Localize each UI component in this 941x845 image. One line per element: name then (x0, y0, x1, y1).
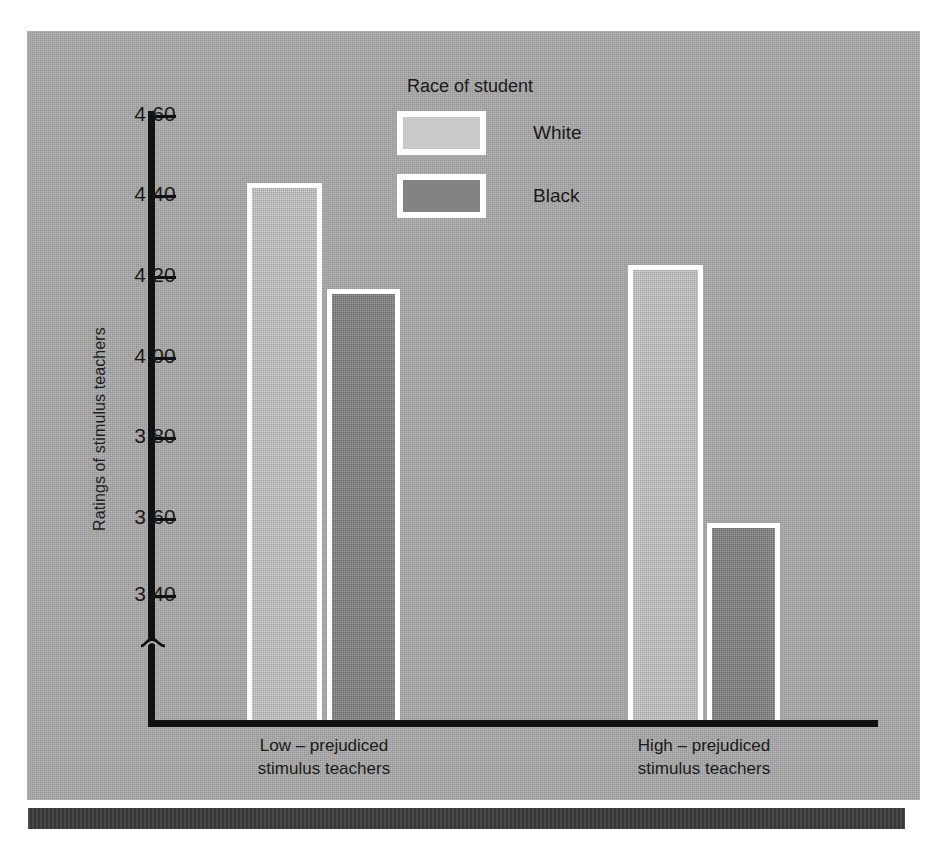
y-tick-label: 4.00 (84, 344, 176, 368)
x-group-label-line1: High – prejudiced (554, 735, 854, 758)
legend-label: White (533, 122, 582, 144)
x-axis-line (148, 720, 878, 727)
chart-figure-panel: Ratings of stimulus teachers 4.60 4.40 4… (27, 31, 920, 800)
x-group-label-line1: Low – prejudiced (174, 735, 474, 758)
bar-high-prejudiced-white[interactable] (628, 265, 703, 720)
legend-swatch-white (397, 111, 486, 155)
x-group-label-line2: stimulus teachers (174, 758, 474, 781)
y-tick-mark (155, 195, 176, 198)
legend-swatch-black (397, 174, 486, 218)
legend: Race of student White Black (397, 76, 667, 237)
bar-fill (633, 270, 698, 720)
legend-swatch-fill (403, 117, 480, 149)
y-tick-label: 4.60 (84, 102, 176, 126)
y-tick-mark (155, 437, 176, 440)
x-axis-group-label-low: Low – prejudiced stimulus teachers (174, 735, 474, 781)
y-tick-mark (155, 595, 176, 598)
y-tick-mark (155, 276, 176, 279)
y-tick-mark (155, 115, 176, 118)
legend-label: Black (533, 185, 579, 207)
y-tick-label: 4.40 (84, 182, 176, 206)
legend-title: Race of student (407, 76, 667, 97)
x-axis-group-label-high: High – prejudiced stimulus teachers (554, 735, 854, 781)
y-tick-label: 3.80 (84, 424, 176, 448)
x-group-label-line2: stimulus teachers (554, 758, 854, 781)
y-tick-label: 3.60 (84, 505, 176, 529)
bar-low-prejudiced-white[interactable] (247, 183, 322, 720)
y-tick-mark (155, 518, 176, 521)
bar-fill (712, 528, 775, 720)
bar-fill (252, 188, 317, 720)
legend-item-black[interactable]: Black (397, 174, 667, 218)
bottom-rule-divider (28, 808, 905, 829)
legend-swatch-fill (403, 180, 480, 212)
y-tick-label: 3.40 (84, 582, 176, 606)
y-tick-mark (155, 357, 176, 360)
y-tick-label: 4.20 (84, 263, 176, 287)
bar-high-prejudiced-black[interactable] (707, 523, 780, 720)
bar-low-prejudiced-black[interactable] (327, 289, 400, 720)
axis-break-icon (140, 635, 166, 651)
legend-item-white[interactable]: White (397, 111, 667, 155)
bar-fill (332, 294, 395, 720)
